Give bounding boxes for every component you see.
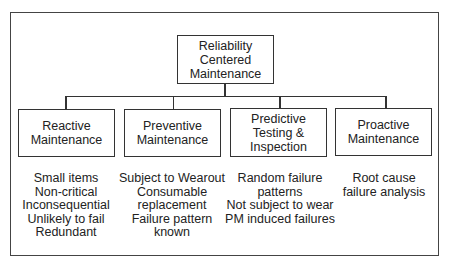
root-node-line: Centered: [200, 53, 251, 67]
node-line: Inspection: [250, 140, 307, 154]
detail-item: Root cause: [324, 172, 444, 186]
node-line: Predictive: [251, 112, 306, 126]
root-node-rcm: Reliability Centered Maintenance: [177, 35, 274, 84]
detail-item: Inconsequential: [6, 199, 126, 213]
detail-item: PM induced failures: [218, 213, 342, 227]
node-line: Preventive: [143, 119, 202, 133]
horizontal-bus-connector: [65, 96, 386, 98]
node-line: Testing &: [253, 126, 304, 140]
detail-item: Unlikely to fail: [6, 213, 126, 227]
connector-proactive: [385, 96, 387, 108]
detail-item: Not subject to wear: [218, 199, 342, 213]
detail-item: Consumable: [112, 186, 232, 200]
detail-item: failure analysis: [324, 186, 444, 200]
details-proactive: Root cause failure analysis: [324, 172, 444, 199]
detail-item: Small items: [6, 172, 126, 186]
root-connector-vertical: [224, 83, 226, 96]
node-line: Maintenance: [137, 133, 209, 147]
node-line: Maintenance: [348, 132, 420, 146]
root-node-line: Maintenance: [190, 67, 262, 81]
details-preventive: Subject to Wearout Consumable replacemen…: [112, 172, 232, 240]
connector-reactive: [65, 96, 67, 109]
node-preventive-maintenance: Preventive Maintenance: [124, 109, 221, 157]
detail-item: Non-critical: [6, 186, 126, 200]
connector-preventive: [173, 96, 175, 109]
detail-item: Failure pattern: [112, 213, 232, 227]
connector-predictive: [279, 96, 281, 108]
root-node-line: Reliability: [199, 39, 253, 53]
detail-item: replacement: [112, 199, 232, 213]
node-line: Maintenance: [31, 133, 103, 147]
detail-item: Redundant: [6, 226, 126, 240]
node-line: Reactive: [42, 119, 91, 133]
node-predictive-testing-inspection: Predictive Testing & Inspection: [230, 108, 327, 157]
node-reactive-maintenance: Reactive Maintenance: [18, 109, 115, 157]
detail-item: Subject to Wearout: [112, 172, 232, 186]
node-proactive-maintenance: Proactive Maintenance: [335, 108, 432, 156]
details-reactive: Small items Non-critical Inconsequential…: [6, 172, 126, 240]
detail-item: known: [112, 226, 232, 240]
node-line: Proactive: [357, 118, 409, 132]
